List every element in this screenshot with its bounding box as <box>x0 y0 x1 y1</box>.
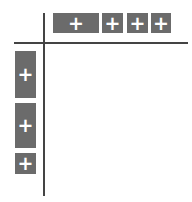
plus-icon: + <box>153 14 169 33</box>
row-header-1-add-button[interactable]: + <box>15 51 36 98</box>
horizontal-divider[interactable] <box>14 42 188 44</box>
plus-icon: + <box>105 14 121 33</box>
plus-icon: + <box>18 116 34 135</box>
plus-icon: + <box>130 14 146 33</box>
plus-icon: + <box>18 154 34 173</box>
plus-icon: + <box>68 14 84 33</box>
column-header-3-add-button[interactable]: + <box>127 13 148 33</box>
row-header-3-add-button[interactable]: + <box>15 153 36 174</box>
column-header-1-add-button[interactable]: + <box>53 13 99 33</box>
column-header-4-add-button[interactable]: + <box>151 13 171 33</box>
column-header-2-add-button[interactable]: + <box>102 13 123 33</box>
row-header-2-add-button[interactable]: + <box>15 103 36 148</box>
plus-icon: + <box>18 65 34 84</box>
vertical-divider[interactable] <box>43 13 45 196</box>
